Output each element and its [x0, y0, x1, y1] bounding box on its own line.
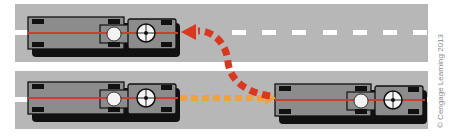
overtaking-diagram: [0, 0, 455, 139]
bottom-left-vehicle: [28, 82, 180, 122]
top-vehicle: [28, 17, 180, 57]
bottom-right-vehicle: [275, 84, 427, 124]
orange-straight-arrow: [180, 91, 276, 105]
red-curved-arrow: [181, 24, 270, 96]
copyright-credit: © Cengage Learning 2013: [436, 34, 445, 128]
